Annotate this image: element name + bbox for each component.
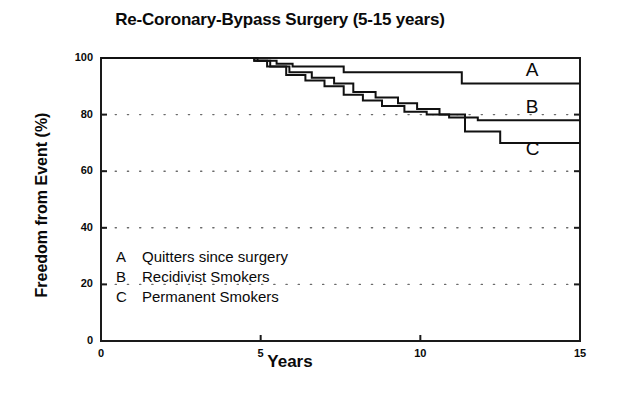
curve-C: [101, 58, 580, 143]
y-tick-label: 0: [59, 334, 93, 346]
legend-label-a: Quitters since surgery: [142, 247, 288, 267]
legend: A Quitters since surgery B Recidivist Sm…: [116, 247, 288, 307]
y-tick-label: 40: [59, 221, 93, 233]
legend-key-b: B: [116, 267, 142, 287]
legend-label-c: Permanent Smokers: [142, 287, 288, 307]
chart-figure: Re-Coronary-Bypass Surgery (5-15 years) …: [0, 0, 617, 393]
legend-key-a: A: [116, 247, 142, 267]
y-tick-label: 100: [59, 51, 93, 63]
x-tick-label: 10: [408, 347, 432, 359]
y-tick-label: 60: [59, 164, 93, 176]
list-item: A Quitters since surgery: [116, 247, 288, 267]
legend-key-c: C: [116, 287, 142, 307]
x-tick-label: 5: [249, 347, 273, 359]
x-tick-label: 0: [89, 347, 113, 359]
curve-label-b: B: [526, 96, 539, 118]
data-curves: [101, 58, 580, 143]
list-item: C Permanent Smokers: [116, 287, 288, 307]
legend-label-b: Recidivist Smokers: [142, 267, 288, 287]
y-tick-label: 80: [59, 108, 93, 120]
curve-label-c: C: [526, 138, 540, 160]
curve-label-a: A: [526, 59, 539, 81]
curve-A: [101, 58, 580, 84]
list-item: B Recidivist Smokers: [116, 267, 288, 287]
x-tick-label: 15: [568, 347, 592, 359]
y-tick-label: 20: [59, 277, 93, 289]
